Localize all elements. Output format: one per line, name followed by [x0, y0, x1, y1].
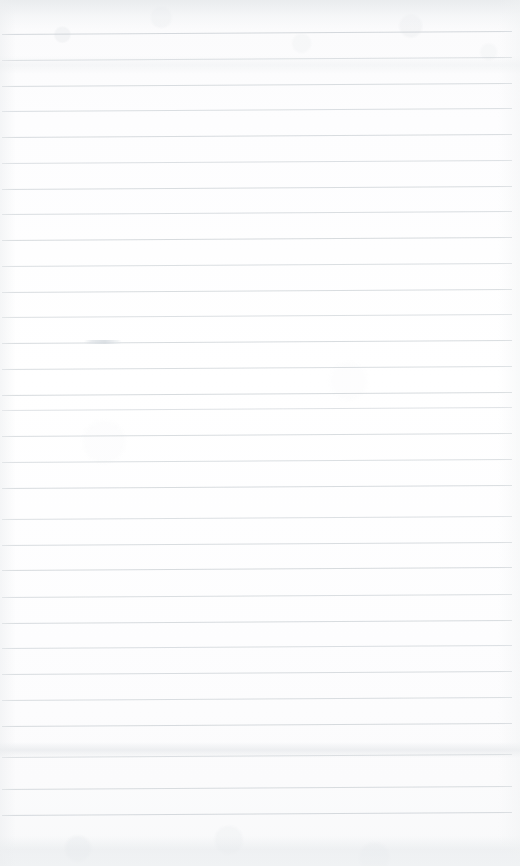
page-text-content	[0, 0, 520, 866]
scanned-paper-page	[0, 0, 520, 866]
